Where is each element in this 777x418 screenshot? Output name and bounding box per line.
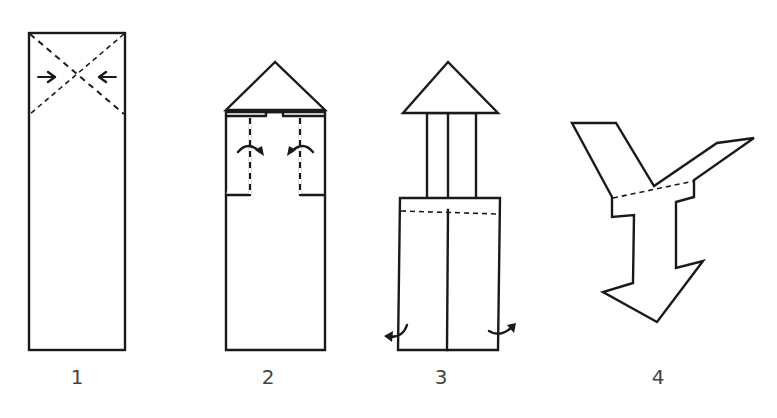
step-2-figure — [226, 62, 325, 350]
step-label-1: 1 — [62, 365, 92, 389]
paper-rectangle — [29, 33, 125, 350]
folding-diagram — [0, 0, 777, 418]
triangle-top — [226, 62, 325, 110]
triangle-top — [403, 62, 498, 113]
step-label-4: 4 — [643, 365, 673, 389]
y-shape — [572, 123, 754, 322]
step-label-3: 3 — [426, 365, 456, 389]
step-1-figure — [29, 33, 125, 350]
step-3-figure — [384, 62, 516, 350]
neck — [427, 113, 476, 199]
body-seam — [447, 210, 448, 350]
step-label-2: 2 — [253, 365, 283, 389]
step-4-figure — [572, 123, 754, 322]
